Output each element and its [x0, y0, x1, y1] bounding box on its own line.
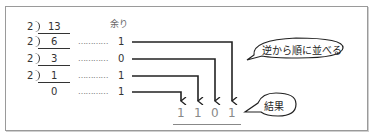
result-digit-1: 1: [177, 106, 185, 120]
result-digit-4: 1: [228, 106, 236, 120]
result-callout-text: 結果: [264, 98, 284, 113]
result-underline: [173, 124, 241, 125]
reorder-arrows: [0, 0, 373, 136]
result-digit-3: 0: [211, 106, 219, 120]
reverse-order-callout-text: 逆から順に並べる: [262, 42, 342, 57]
result-digit-2: 1: [194, 106, 202, 120]
